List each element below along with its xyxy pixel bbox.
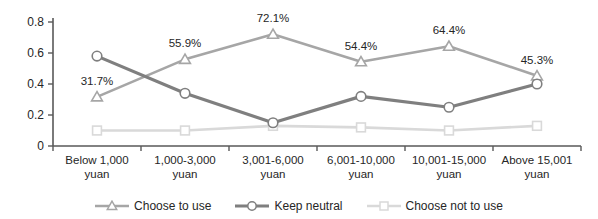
series-line-keep-neutral	[97, 56, 537, 123]
series-keep-neutral	[92, 51, 542, 127]
legend-circle-swatch	[235, 200, 269, 212]
category-label: Above 15,001yuan	[502, 154, 573, 180]
category-label: 3,001-6,000yuan	[242, 154, 303, 180]
data-label: 31.7%	[81, 75, 114, 87]
legend-triangle-swatch	[95, 200, 129, 212]
circle-marker	[532, 79, 542, 89]
chart-legend: Choose to useKeep neutralChoose not to u…	[0, 193, 598, 219]
data-label: 54.4%	[345, 40, 378, 52]
y-axis-tick-label: 0	[37, 139, 44, 153]
legend-square-swatch	[367, 200, 401, 212]
data-label: 64.4%	[433, 24, 466, 36]
y-axis-tick-label: 0.6	[27, 46, 44, 60]
legend-label: Choose not to use	[406, 199, 503, 213]
square-marker	[181, 126, 190, 135]
plot-area: 00.20.40.60.8Below 1,000yuan1,000-3,000y…	[0, 0, 598, 192]
y-axis-tick-label: 0.2	[27, 108, 44, 122]
data-label: 55.9%	[169, 37, 202, 49]
circle-marker	[180, 89, 190, 99]
circle-marker	[356, 92, 366, 102]
series-choose-to-use: 31.7%55.9%72.1%54.4%64.4%45.3%	[81, 12, 554, 101]
series-line-choose-to-use	[97, 34, 537, 97]
legend-item-keep-neutral: Keep neutral	[235, 199, 342, 213]
category-label: 10,001-15,000yuan	[412, 154, 486, 180]
line-chart: 00.20.40.60.8Below 1,000yuan1,000-3,000y…	[0, 0, 598, 219]
legend-label: Keep neutral	[274, 199, 342, 213]
legend-label: Choose to use	[134, 199, 211, 213]
y-axis-tick-label: 0.8	[27, 15, 44, 29]
triangle-marker	[268, 29, 279, 38]
category-label: 1,000-3,000yuan	[154, 154, 215, 180]
y-axis-tick-label: 0.4	[27, 77, 44, 91]
square-marker	[357, 123, 366, 132]
circle-marker	[92, 51, 102, 61]
data-label: 72.1%	[257, 12, 290, 24]
legend-item-choose-to-use: Choose to use	[95, 199, 211, 213]
legend-item-choose-not-to-use: Choose not to use	[367, 199, 503, 213]
series-choose-not-to-use	[93, 121, 542, 134]
legend-circle-icon	[248, 202, 256, 210]
data-label: 45.3%	[521, 54, 554, 66]
legend-square-icon	[380, 202, 388, 210]
series-line-choose-not-to-use	[97, 126, 537, 131]
circle-marker	[444, 102, 454, 112]
circle-marker	[268, 118, 278, 128]
category-label: Below 1,000yuan	[65, 154, 128, 180]
category-label: 6,001-10,000yuan	[327, 154, 395, 180]
square-marker	[445, 126, 454, 135]
square-marker	[533, 121, 542, 130]
square-marker	[93, 126, 102, 135]
